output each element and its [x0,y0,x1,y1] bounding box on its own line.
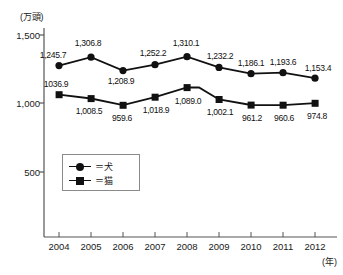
data-label-dog-2004: 1,245.7 [33,50,73,60]
legend-marker-square-icon [69,180,91,181]
data-label-cat-2007: 1,018.9 [136,105,176,115]
x-tick-label-2011: 2011 [267,241,299,252]
legend-label-dog: ＝犬 [95,160,113,173]
data-label-cat-2008: 1,089.0 [168,96,208,106]
line-chart: (万頭) 1,500 1,000 500 [0,0,343,275]
x-tick-label-2010: 2010 [235,241,267,252]
data-label-dog-2012: 1,153.4 [298,63,338,73]
legend-item-dog: ＝犬 [69,160,113,173]
legend: ＝犬 ＝猫 [62,154,140,191]
x-tick-label-2008: 2008 [171,241,203,252]
legend-label-cat: ＝猫 [95,174,113,187]
data-label-dog-2007: 1,252.2 [133,48,173,58]
legend-item-cat: ＝猫 [69,174,113,187]
data-label-dog-2005: 1,306.8 [68,38,108,48]
x-tick-label-2007: 2007 [139,241,171,252]
x-tick-label-2012: 2012 [299,241,331,252]
x-tick-label-2009: 2009 [203,241,235,252]
legend-marker-circle-icon [69,166,91,167]
x-tick-label-2004: 2004 [43,241,75,252]
x-tick-label-2005: 2005 [75,241,107,252]
data-label-cat-2012: 974.8 [297,111,337,121]
data-label-dog-2008: 1,310.1 [166,38,206,48]
data-label-cat-2004: 1036.9 [36,79,76,89]
x-axis-unit-label: (年) [322,255,337,268]
data-label-dog-2011: 1,193.6 [263,57,303,67]
data-label-dog-2006: 1,208.9 [101,76,141,86]
x-tick-label-2006: 2006 [107,241,139,252]
